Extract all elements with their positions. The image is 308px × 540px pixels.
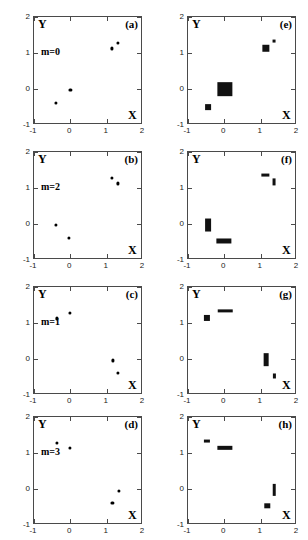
y-tick-right (137, 188, 141, 189)
x-axis-label: X (282, 378, 291, 393)
y-tick-label: -1 (19, 255, 30, 264)
x-axis-label: X (128, 108, 137, 123)
x-tick-label: 2 (140, 126, 144, 135)
y-tick-label: 0 (19, 84, 30, 93)
data-box (217, 446, 232, 450)
data-box (264, 503, 269, 508)
x-tick (34, 119, 35, 123)
x-tick-top (107, 287, 108, 291)
y-tick-label: 0 (173, 354, 184, 363)
data-point (111, 177, 114, 180)
x-tick-label: 2 (294, 126, 298, 135)
y-tick-right (291, 89, 295, 90)
y-tick (188, 188, 192, 189)
y-tick-label: 1 (173, 183, 184, 192)
x-tick (107, 254, 108, 258)
axes-frame (187, 151, 296, 259)
y-axis-label: Y (192, 17, 201, 32)
x-tick-top (224, 287, 225, 291)
x-tick (70, 519, 71, 523)
y-tick-right (291, 53, 295, 54)
y-tick-right (291, 323, 295, 324)
data-box (216, 238, 231, 243)
y-axis-label: Y (192, 152, 201, 167)
x-tick-label: 0 (67, 526, 71, 535)
y-tick (188, 323, 192, 324)
panel-letter: (c) (126, 288, 138, 300)
data-box (204, 315, 210, 321)
data-box (217, 82, 232, 96)
panel-d: -1012210-1YX(d)m=3 (0, 400, 154, 535)
y-tick-label: 2 (19, 147, 30, 156)
y-tick-label: 1 (19, 448, 30, 457)
y-tick-label: 2 (19, 412, 30, 421)
y-axis-label: Y (38, 417, 47, 432)
data-point (117, 182, 120, 185)
axes-frame (187, 416, 296, 524)
x-tick-label: 1 (103, 126, 107, 135)
x-tick-top (261, 17, 262, 21)
x-tick-label: 1 (103, 261, 107, 270)
y-tick (34, 53, 38, 54)
x-tick-label: 1 (257, 126, 261, 135)
m-annotation: m=3 (41, 446, 60, 457)
m-annotation: m=0 (41, 46, 60, 57)
y-tick (188, 53, 192, 54)
panel-e: -1012210-1YX(e) (154, 0, 308, 135)
x-tick-label: -1 (29, 261, 36, 270)
x-tick-top (224, 417, 225, 421)
y-tick (34, 188, 38, 189)
y-axis-label: Y (38, 287, 47, 302)
data-box (262, 174, 269, 177)
data-point (54, 101, 57, 104)
x-tick-top (224, 152, 225, 156)
x-tick (70, 254, 71, 258)
y-tick-label: 0 (173, 484, 184, 493)
y-tick-label: -1 (19, 390, 30, 399)
y-tick-label: 0 (19, 484, 30, 493)
y-tick-label: -1 (19, 520, 30, 529)
x-tick-label: 1 (103, 526, 107, 535)
x-tick-top (107, 152, 108, 156)
plot-area (188, 17, 295, 123)
x-tick (224, 119, 225, 123)
x-tick (261, 519, 262, 523)
x-axis-label: X (128, 508, 137, 523)
y-tick-right (137, 224, 141, 225)
x-tick (188, 519, 189, 523)
y-tick (34, 224, 38, 225)
panel-letter: (a) (125, 18, 138, 30)
y-tick (188, 89, 192, 90)
plot-area (34, 152, 141, 258)
x-tick-label: 2 (140, 526, 144, 535)
data-point (69, 88, 72, 91)
x-tick-label: 2 (294, 526, 298, 535)
x-tick (224, 519, 225, 523)
plot-area (34, 287, 141, 393)
data-point (116, 42, 119, 45)
axes-frame (33, 416, 142, 524)
y-axis-label: Y (192, 417, 201, 432)
data-box (273, 373, 275, 378)
data-box (264, 353, 269, 367)
y-tick-right (137, 453, 141, 454)
x-axis-label: X (128, 243, 137, 258)
y-tick-right (137, 323, 141, 324)
y-tick-label: -1 (173, 120, 184, 129)
y-tick-label: 0 (173, 219, 184, 228)
y-tick-label: 1 (173, 48, 184, 57)
x-tick (34, 254, 35, 258)
x-tick-label: 0 (221, 526, 225, 535)
y-tick-label: 1 (173, 448, 184, 457)
plot-area (34, 417, 141, 523)
x-tick-top (261, 152, 262, 156)
x-tick-top (70, 417, 71, 421)
x-tick-top (107, 17, 108, 21)
y-tick-right (137, 489, 141, 490)
x-tick-label: -1 (183, 526, 190, 535)
x-tick-label: -1 (29, 126, 36, 135)
x-tick (188, 119, 189, 123)
x-tick (34, 389, 35, 393)
x-tick-label: 0 (67, 261, 71, 270)
y-tick-label: 2 (173, 12, 184, 21)
